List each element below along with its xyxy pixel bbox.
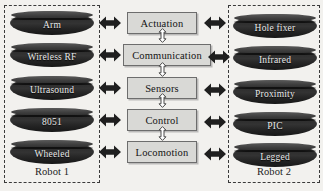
- node-label: Wireless RF: [10, 43, 94, 67]
- block-label: Control: [145, 115, 178, 126]
- node-label: Arm: [10, 11, 94, 35]
- node-robot2-pic[interactable]: PIC: [233, 112, 317, 136]
- node-label: PIC: [233, 112, 317, 136]
- node-robot1-8051[interactable]: 8051: [10, 108, 94, 132]
- double-arrow-icon-wheeled-locomotion: [99, 144, 121, 160]
- node-robot2-legged[interactable]: Legged: [233, 143, 317, 167]
- double-arrow-icon-locomotion-legged: [204, 146, 226, 162]
- vertical-double-arrow-icon-communication-sensors: [158, 62, 167, 77]
- node-robot1-wireless-rf[interactable]: Wireless RF: [10, 43, 94, 67]
- node-robot1-wheeled[interactable]: Wheeled: [10, 140, 94, 164]
- block-communication[interactable]: Communication: [123, 44, 211, 66]
- robot1-group-label: Robot 1: [5, 166, 99, 177]
- node-label: Proximity: [233, 80, 317, 104]
- double-arrow-icon-wirelessrf-communication: [99, 47, 121, 63]
- double-arrow-icon-control-pic: [204, 114, 226, 130]
- vertical-double-arrow-icon-control-locomotion: [158, 126, 167, 141]
- node-robot1-ultrasound[interactable]: Ultrasound: [10, 76, 94, 100]
- node-label: Hole fixer: [233, 14, 317, 38]
- block-diagram: Robot 1 Arm Wireless RF Ultrasound 8051 …: [0, 0, 323, 191]
- block-locomotion[interactable]: Locomotion: [127, 141, 197, 163]
- double-arrow-icon-actuation-holefixer: [204, 15, 226, 31]
- vertical-double-arrow-icon-sensors-control: [158, 93, 167, 108]
- node-robot1-arm[interactable]: Arm: [10, 11, 94, 35]
- node-label: Legged: [233, 143, 317, 167]
- double-arrow-icon-communication-infrared: [208, 49, 230, 65]
- double-arrow-icon-sensors-proximity: [204, 82, 226, 98]
- vertical-double-arrow-icon-actuation-communication: [158, 28, 167, 43]
- node-label: Ultrasound: [10, 76, 94, 100]
- node-robot2-proximity[interactable]: Proximity: [233, 80, 317, 104]
- robot2-group-label: Robot 2: [229, 166, 319, 177]
- node-label: Wheeled: [10, 140, 94, 164]
- block-label: Sensors: [145, 83, 179, 94]
- node-label: 8051: [10, 108, 94, 132]
- node-label: Infrared: [233, 46, 317, 70]
- block-label: Communication: [132, 50, 202, 61]
- double-arrow-icon-8051-control: [99, 112, 121, 128]
- node-robot2-infrared[interactable]: Infrared: [233, 46, 317, 70]
- block-label: Locomotion: [136, 147, 189, 158]
- double-arrow-icon-arm-actuation: [99, 15, 121, 31]
- double-arrow-icon-ultrasound-sensors: [99, 80, 121, 96]
- block-label: Actuation: [141, 18, 184, 29]
- node-robot2-hole-fixer[interactable]: Hole fixer: [233, 14, 317, 38]
